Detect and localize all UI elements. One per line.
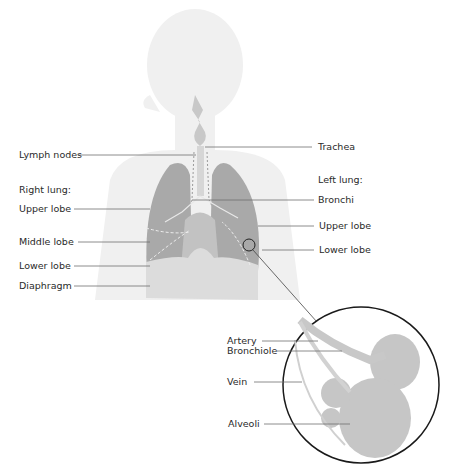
label-diaphragm: Diaphragm	[19, 281, 72, 291]
label-left-lower-lobe: Lower lobe	[319, 245, 371, 255]
respiratory-diagram: Lymph nodes Right lung: Upper lobe Middl…	[0, 0, 457, 471]
label-left-lung-heading: Left lung:	[318, 175, 363, 185]
label-lymph-nodes: Lymph nodes	[19, 150, 82, 160]
alveoli-inset	[283, 307, 439, 463]
label-right-lung-heading: Right lung:	[19, 185, 71, 195]
label-right-middle-lobe: Middle lobe	[19, 237, 74, 247]
label-right-upper-lobe: Upper lobe	[19, 204, 71, 214]
label-alveoli: Alveoli	[228, 419, 260, 429]
label-bronchiole: Bronchiole	[227, 346, 277, 356]
label-bronchi: Bronchi	[318, 195, 354, 205]
label-vein: Vein	[227, 377, 247, 387]
label-left-upper-lobe: Upper lobe	[319, 221, 371, 231]
label-trachea: Trachea	[318, 142, 355, 152]
label-right-lower-lobe: Lower lobe	[19, 261, 71, 271]
